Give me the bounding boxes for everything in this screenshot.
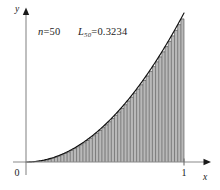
riemann-rectangle — [149, 71, 152, 162]
riemann-rectangle — [102, 128, 105, 162]
riemann-rectangle — [80, 145, 83, 162]
riemann-rectangle — [133, 93, 136, 162]
riemann-rectangle — [70, 150, 73, 162]
riemann-rectangles — [32, 19, 184, 162]
x-tick-label-1: 1 — [182, 167, 187, 178]
riemann-rectangle — [96, 133, 99, 162]
riemann-rectangle — [51, 158, 54, 162]
riemann-rectangle — [162, 52, 165, 162]
sum-subscript: 50 — [84, 31, 91, 38]
riemann-rectangle — [143, 80, 146, 162]
riemann-rectangle — [165, 47, 168, 162]
riemann-rectangle — [64, 153, 67, 162]
riemann-rectangle — [61, 155, 64, 162]
riemann-rectangle — [105, 125, 108, 162]
sum-value: 0.3234 — [97, 26, 127, 37]
riemann-rectangle — [118, 112, 121, 162]
riemann-rectangle — [92, 136, 95, 162]
riemann-rectangle — [152, 67, 155, 162]
riemann-rectangle — [124, 105, 127, 162]
riemann-rectangle — [111, 119, 114, 162]
riemann-rectangle — [140, 85, 143, 162]
sum-annotation: L50=0.3234 — [78, 26, 127, 37]
y-axis-label: y — [14, 4, 20, 14]
riemann-rectangle — [130, 97, 133, 162]
riemann-rectangle — [73, 149, 76, 162]
x-axis-label: x — [202, 172, 208, 182]
riemann-rectangle — [86, 140, 89, 162]
riemann-rectangle — [67, 152, 70, 162]
riemann-rectangle — [83, 143, 86, 162]
riemann-rectangle — [121, 108, 124, 162]
riemann-rectangle — [89, 138, 92, 162]
riemann-rectangle — [168, 41, 171, 162]
riemann-rectangle — [58, 156, 61, 162]
riemann-rectangle — [156, 62, 159, 162]
riemann-rectangle — [108, 122, 111, 162]
y-axis-arrowhead — [23, 8, 29, 16]
x-axis-arrowhead — [204, 159, 212, 165]
riemann-rectangle — [146, 76, 149, 162]
origin-label: 0 — [15, 167, 20, 178]
riemann-rectangle — [99, 130, 102, 162]
riemann-rectangle — [181, 19, 184, 162]
riemann-rectangle — [54, 157, 57, 162]
riemann-rectangle — [178, 25, 181, 162]
riemann-rectangle — [127, 101, 130, 162]
riemann-rectangle — [137, 89, 140, 162]
riemann-rectangle — [159, 57, 162, 162]
n-value: 50 — [50, 26, 61, 37]
riemann-rectangle — [175, 30, 178, 162]
riemann-rectangle — [171, 36, 174, 162]
riemann-sum-figure: y x 0 1 n=50 L50=0.3234 — [0, 0, 220, 190]
riemann-rectangle — [114, 115, 117, 162]
n-annotation: n=50 — [38, 26, 60, 37]
riemann-rectangle — [77, 147, 80, 162]
